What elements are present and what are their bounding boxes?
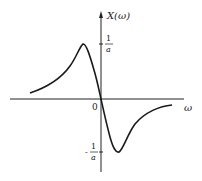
x-axis-label: ω	[184, 102, 192, 113]
y-axis-arrow-icon	[99, 11, 103, 18]
plot: X(ω) ω 0 1 a - 1 a	[0, 0, 202, 181]
svg-text:a: a	[91, 153, 96, 162]
y-axis-label: X(ω)	[106, 10, 130, 21]
svg-text:1: 1	[106, 34, 111, 43]
svg-text:1: 1	[91, 142, 96, 151]
y-tick-label-negative: - 1 a	[85, 142, 98, 162]
svg-text:-: -	[85, 148, 88, 157]
y-tick-label-positive: 1 a	[105, 34, 113, 54]
origin-label: 0	[92, 102, 98, 112]
svg-text:a: a	[106, 45, 111, 54]
